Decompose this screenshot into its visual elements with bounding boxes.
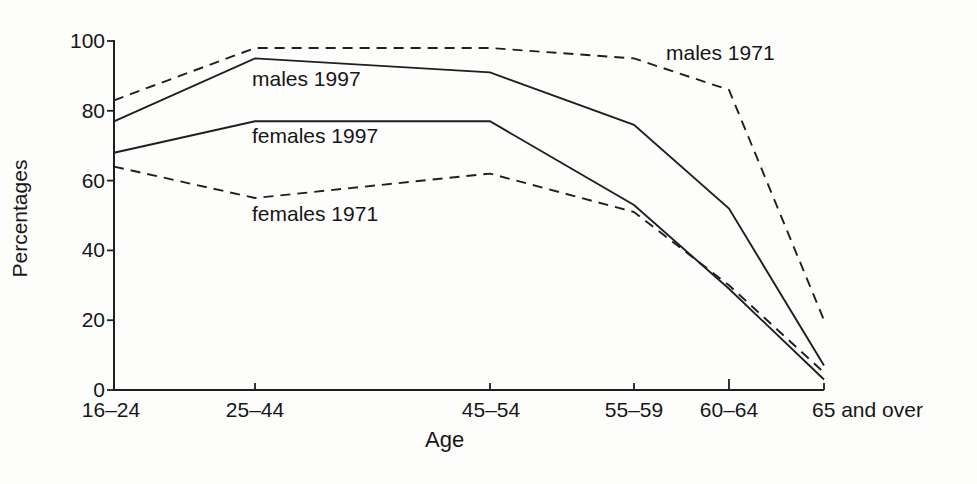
y-tick-label-100: 100 bbox=[45, 29, 105, 52]
series-label-males-1971: males 1971 bbox=[666, 41, 775, 64]
x-tick-label-45-54: 45–54 bbox=[462, 398, 520, 421]
series-label-females-1997: females 1997 bbox=[252, 124, 378, 147]
y-tick-label-80: 80 bbox=[45, 99, 105, 122]
series-line-males-1997 bbox=[114, 58, 824, 365]
series-label-females-1971: females 1971 bbox=[252, 202, 378, 225]
axis-lines bbox=[114, 40, 824, 390]
x-tick-label-55-59: 55–59 bbox=[605, 398, 663, 421]
chart-page: 100 80 60 40 20 0 16–24 25–44 45–54 55–5… bbox=[0, 0, 977, 484]
x-tick-label-16-24: 16–24 bbox=[82, 398, 140, 421]
y-tick-label-40: 40 bbox=[45, 238, 105, 261]
x-tick-label-60-64: 60–64 bbox=[700, 398, 758, 421]
x-tick-label-25-44: 25–44 bbox=[226, 398, 284, 421]
y-tick-label-60: 60 bbox=[45, 169, 105, 192]
y-tick-label-20: 20 bbox=[45, 308, 105, 331]
series-line-females-1997 bbox=[114, 121, 824, 379]
y-axis-title: Percentages bbox=[8, 138, 31, 300]
x-axis-title: Age bbox=[425, 428, 464, 452]
x-tick-label-65-and-over: 65 and over bbox=[812, 398, 923, 421]
series-label-males-1997: males 1997 bbox=[252, 67, 361, 90]
